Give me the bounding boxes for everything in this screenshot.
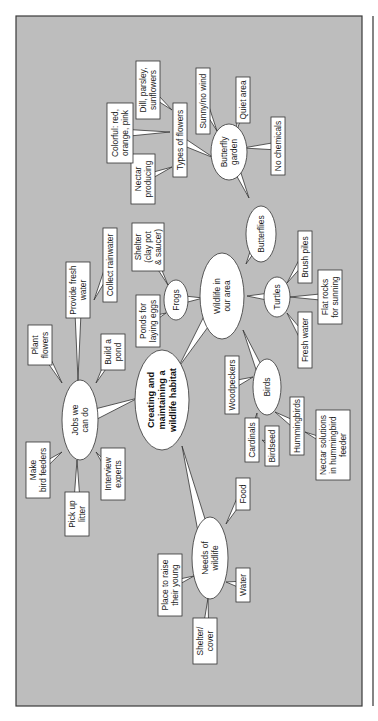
node-label: Sunny/no wind xyxy=(198,73,208,128)
node-label: Build apond xyxy=(103,339,123,365)
node-butterflies: Butterflies xyxy=(246,206,276,262)
node-plant-flowers: Plantflowers xyxy=(28,325,52,365)
node-make-feeders: Makebird feeders xyxy=(26,442,50,498)
node-sunny: Sunny/no wind xyxy=(196,68,210,134)
node-label: Wildlife inour area xyxy=(212,278,232,314)
node-label: Interviewexperts xyxy=(103,456,123,490)
node-nectar-solutions: Nectar solutionsin hummingbirdfeeder xyxy=(316,410,350,480)
node-label: Jobs wecan do xyxy=(70,404,90,435)
node-label: Water xyxy=(238,574,248,596)
node-birdseed: Birdseed xyxy=(265,426,279,466)
node-fresh-water-job: Provide freshwater xyxy=(66,262,90,318)
node-label: Brush piles xyxy=(300,236,310,277)
node-label: Quiet area xyxy=(238,80,248,119)
node-food: Food xyxy=(236,478,250,510)
node-colorful: Colorful: red,orange, pink xyxy=(107,103,133,163)
node-label: Birds xyxy=(262,377,272,396)
node-woodpeckers: Woodpeckers xyxy=(225,356,239,414)
node-frogs: Frogs xyxy=(164,280,188,320)
node-label: Colorful: red,orange, pink xyxy=(110,109,130,157)
node-fresh-water-turtle: Fresh water xyxy=(298,312,312,368)
node-label: Needs ofwildlife xyxy=(200,541,220,575)
node-brush: Brush piles xyxy=(298,231,312,283)
node-label: Turtles xyxy=(272,284,282,309)
node-no-chem: No chemicals xyxy=(271,117,285,175)
node-needs: Needs ofwildlife xyxy=(192,517,228,599)
node-label: Frogs xyxy=(171,289,181,310)
node-label: Shelter(clay pot& saucer) xyxy=(133,229,162,265)
node-label: Butterflygarden xyxy=(219,136,239,168)
node-wildlife: Wildlife inour area xyxy=(200,253,244,339)
node-center: Creating andmaintaining awildlife habita… xyxy=(135,350,189,450)
node-raise-young: Place to raisetheir young xyxy=(158,554,182,616)
node-dill: Dill, parsley,sunflowers xyxy=(136,61,160,119)
node-label: Flat rocksfor sunning xyxy=(320,276,340,318)
node-butterfly-garden: Butterflygarden xyxy=(211,124,247,180)
node-label: Butterflies xyxy=(256,215,266,252)
concept-map: Creating andmaintaining awildlife habita… xyxy=(0,0,378,721)
node-pick-litter: Pick uplitter xyxy=(65,492,89,536)
node-label: Ponds forlaying eggs xyxy=(138,300,158,342)
node-turtles: Turtles xyxy=(264,277,290,317)
node-rainwater: Collect rainwater xyxy=(103,228,117,302)
node-shelter-cover: Shelter/cover xyxy=(193,618,217,664)
node-label: Cardinals xyxy=(247,422,257,457)
node-label: Types of flowers xyxy=(175,110,185,171)
node-label: Food xyxy=(238,484,248,503)
node-hummingbirds: Hummingbirds xyxy=(290,397,304,455)
node-label: Place to raisetheir young xyxy=(160,559,180,610)
node-nectar: Nectarproducing xyxy=(131,154,155,204)
node-types-flowers: Types of flowers xyxy=(173,103,187,177)
node-flat-rocks: Flat rocksfor sunning xyxy=(318,270,342,324)
node-label: Hummingbirds xyxy=(292,399,302,453)
node-label: Fresh water xyxy=(300,318,310,362)
node-label: Plantflowers xyxy=(30,332,50,359)
node-ponds-eggs: Ponds forlaying eggs xyxy=(136,295,160,347)
node-label: Woodpeckers xyxy=(227,359,237,410)
node-jobs: Jobs wecan do xyxy=(62,380,98,460)
node-water: Water xyxy=(236,568,250,602)
node-shelter-pot: Shelter(clay pot& saucer) xyxy=(132,223,164,271)
node-cardinals: Cardinals xyxy=(245,418,259,462)
node-build-pond: Build apond xyxy=(101,334,125,370)
node-label: No chemicals xyxy=(273,121,283,171)
node-label: Birdseed xyxy=(267,429,277,462)
node-label: Collect rainwater xyxy=(105,234,115,297)
node-label: Creating andmaintaining awildlife habita… xyxy=(146,368,177,433)
node-quiet: Quiet area xyxy=(236,77,250,123)
node-interview: Interviewexperts xyxy=(101,448,125,500)
node-label: Dill, parsley,sunflowers xyxy=(138,68,158,113)
node-birds: Birds xyxy=(253,359,281,415)
